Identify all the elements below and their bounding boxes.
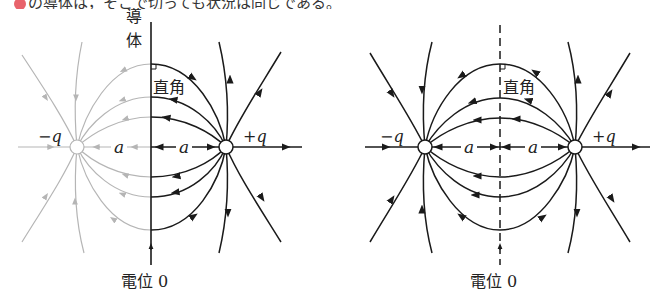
distance-label-left: a [464, 137, 474, 157]
right-angle-label: 直角 [153, 78, 185, 97]
positive-charge-label: +q [243, 127, 267, 146]
left-figure: 導 体 直角 電位 0 −q +q a a [18, 7, 302, 291]
potential-label: 電位 0 [121, 272, 168, 291]
positive-charge [219, 140, 233, 154]
right-figure: 直角 電位 0 −q +q a a [365, 25, 650, 291]
distance-label-right: a [179, 137, 189, 157]
negative-charge-label: −q [38, 127, 62, 146]
positive-charge [568, 140, 582, 154]
positive-charge-label: +q [592, 127, 616, 146]
potential-label: 電位 0 [470, 272, 517, 291]
conductor-label-2: 体 [126, 31, 142, 50]
conductor-label-1: 導 [126, 7, 142, 26]
field-lines [365, 42, 650, 253]
right-angle-label: 直角 [503, 78, 535, 97]
negative-charge [418, 140, 432, 154]
distance-label-left: a [114, 137, 124, 157]
electric-field-diagram: 導 体 直角 電位 0 −q +q a a [0, 0, 662, 303]
ghost-field-lines [18, 42, 151, 253]
negative-charge-label: −q [380, 127, 404, 146]
distance-label-right: a [528, 137, 538, 157]
